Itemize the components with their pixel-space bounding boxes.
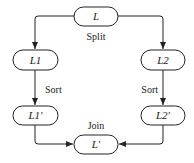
node-label: L1 [29, 54, 42, 66]
node-label: L2 [156, 54, 169, 66]
node-L: L [74, 7, 118, 26]
node-L2: L2 [141, 50, 185, 70]
merge-sort-diagram: L L1 L2 L1′ L2′ L′ Split Sort Sort Join [0, 0, 194, 163]
node-L-prime: L′ [74, 135, 118, 154]
node-L1: L1 [13, 50, 58, 70]
node-L2-prime: L2′ [141, 106, 185, 125]
node-label: L2′ [155, 109, 171, 121]
edge-L-to-L2 [118, 16, 163, 49]
sort-label-right: Sort [141, 84, 158, 95]
join-label: Join [88, 120, 105, 131]
node-label: L1′ [27, 109, 43, 121]
node-label: L [92, 10, 99, 22]
edge-L-to-L1 [35, 16, 74, 49]
sort-label-left: Sort [45, 84, 62, 95]
split-label: Split [87, 31, 106, 42]
edge-L1p-to-Lp [35, 125, 73, 144]
node-L1-prime: L1′ [13, 106, 58, 125]
node-label: L′ [91, 138, 101, 150]
edge-L2p-to-Lp [119, 125, 163, 144]
